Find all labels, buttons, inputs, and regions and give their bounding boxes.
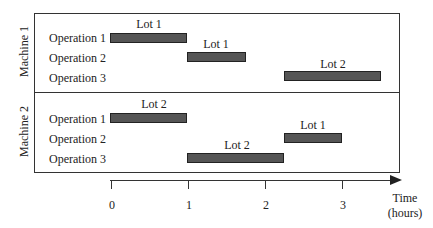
m2-op3-bar xyxy=(187,153,284,163)
m2-op2-lot-label: Lot 1 xyxy=(300,118,326,133)
m1-op3-lot-label: Lot 2 xyxy=(320,57,346,72)
m1-operation-3-label: Operation 3 xyxy=(49,71,106,86)
tick-label-3: 3 xyxy=(340,198,346,213)
m2-op1-bar xyxy=(110,113,187,123)
time-axis-line xyxy=(110,180,395,181)
m1-op2-lot-label: Lot 1 xyxy=(203,37,229,52)
machine-divider xyxy=(34,92,400,93)
tick-0 xyxy=(111,180,112,189)
m2-operation-2-label: Operation 2 xyxy=(49,132,106,147)
tick-3 xyxy=(342,180,343,189)
x-axis-title-line1: Time xyxy=(383,191,427,206)
tick-1 xyxy=(188,180,189,189)
tick-label-2: 2 xyxy=(263,198,269,213)
m1-op1-lot-label: Lot 1 xyxy=(136,17,162,32)
tick-label-1: 1 xyxy=(186,198,192,213)
m1-operation-1-label: Operation 1 xyxy=(49,31,106,46)
tick-label-0: 0 xyxy=(109,198,115,213)
m2-op2-bar xyxy=(284,133,342,143)
m2-op1-lot-label: Lot 2 xyxy=(141,97,167,112)
machine-1-label: Machine 1 xyxy=(17,22,32,82)
m1-op3-bar xyxy=(284,71,381,81)
x-axis-title-line2: (hours) xyxy=(383,206,427,221)
m1-op1-bar xyxy=(110,33,187,43)
x-axis-title: Time (hours) xyxy=(383,191,427,221)
m2-operation-1-label: Operation 1 xyxy=(49,112,106,127)
m1-operation-2-label: Operation 2 xyxy=(49,51,106,66)
machine-2-label: Machine 2 xyxy=(17,102,32,162)
m1-op2-bar xyxy=(187,52,246,62)
m2-operation-3-label: Operation 3 xyxy=(49,152,106,167)
axis-arrow-icon xyxy=(390,175,402,185)
tick-2 xyxy=(265,180,266,189)
m2-op3-lot-label: Lot 2 xyxy=(224,138,250,153)
